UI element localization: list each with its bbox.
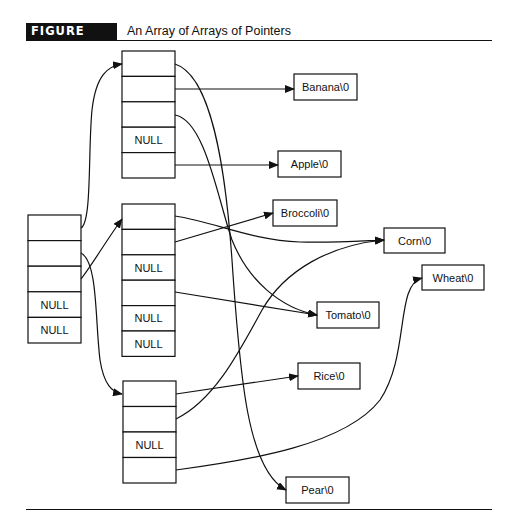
string-label: Tomato\0 [325,309,370,321]
string-corn: Corn\0 [384,228,445,253]
string-tomato: Tomato\0 [317,302,379,328]
array-cell [122,229,175,254]
null-label: NULL [134,134,162,146]
pointer-arrow [175,292,317,315]
cell-box [28,241,81,267]
fruits-array: NULL [122,51,175,178]
grains-array: NULL [123,381,176,483]
string-label: Banana\0 [302,81,349,93]
array-cell [28,266,81,292]
string-pear: Pear\0 [286,477,349,503]
cell-box [122,204,175,229]
array-cell [123,458,176,484]
string-label: Pear\0 [301,484,333,496]
string-banana: Banana\0 [294,74,357,100]
cell-box [123,458,176,484]
vegetables-array: NULLNULLNULL [122,204,175,356]
null-label: NULL [135,439,163,451]
pointer-arrow [81,64,122,228]
array-cell: NULL [123,432,176,458]
array-cell: NULL [122,255,175,280]
string-wheat: Wheat\0 [422,265,484,290]
null-label: NULL [40,324,68,336]
array-cell: NULL [28,292,81,318]
pointer-arrow [176,240,384,419]
root-array: NULLNULL [28,215,81,343]
string-apple: Apple\0 [278,151,341,177]
array-cell [28,241,81,267]
pointer-arrow [175,213,273,242]
array-cell: NULL [28,317,81,343]
array-cell [122,76,175,101]
array-cell [122,102,175,127]
array-cell [122,51,175,76]
pointer-arrow [81,253,122,394]
string-label: Corn\0 [398,235,431,247]
cell-box [122,280,175,305]
pointer-arrow [81,219,122,279]
array-cell [122,153,175,178]
cell-box [122,51,175,76]
array-cell [28,215,81,241]
pointer-arrow [175,64,286,490]
null-label: NULL [134,338,162,350]
string-label: Rice\0 [313,370,344,382]
null-label: NULL [134,262,162,274]
pointer-arrow [176,376,298,394]
array-cell: NULL [122,306,175,331]
array-cell [123,407,176,433]
cell-box [122,229,175,254]
cell-box [122,76,175,101]
null-label: NULL [134,312,162,324]
string-label: Broccoli\0 [281,207,329,219]
cell-box [28,266,81,292]
array-cell [122,280,175,305]
string-broccoli: Broccoli\0 [273,200,337,226]
string-label: Wheat\0 [433,272,474,284]
cell-box [123,381,176,407]
cell-box [122,102,175,127]
null-label: NULL [40,299,68,311]
cell-box [122,153,175,178]
cell-box [28,215,81,241]
string-rice: Rice\0 [298,363,360,389]
pointer-diagram: NULLNULLNULLNULLNULLNULLNULL Banana\0App… [0,0,513,530]
array-cell: NULL [122,127,175,152]
string-label: Apple\0 [291,158,328,170]
array-cell [122,204,175,229]
array-cell [123,381,176,407]
cell-box [123,407,176,433]
array-cell: NULL [122,331,175,356]
